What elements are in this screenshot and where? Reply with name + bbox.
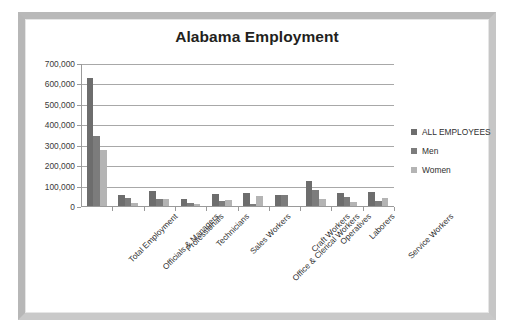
- y-axis-tick: [77, 207, 81, 208]
- legend-item: ALL EMPLOYEES: [411, 122, 491, 141]
- legend-swatch-icon: [411, 129, 417, 135]
- page-title: Alabama Employment: [25, 28, 489, 46]
- y-axis-tick-label: 600,000: [45, 79, 75, 89]
- y-axis-tick: [77, 146, 81, 147]
- x-axis-tick: [269, 207, 270, 211]
- plot-area: 0100,000200,000300,000400,000500,000600,…: [81, 64, 394, 207]
- bar: [312, 190, 319, 207]
- x-axis-tick: [144, 207, 145, 211]
- x-axis-category-label: Office & Clerical Workers: [291, 212, 362, 283]
- gridline: [81, 64, 394, 65]
- legend-swatch-icon: [411, 148, 417, 154]
- y-axis-tick: [77, 166, 81, 167]
- x-axis-category-label: Service Workers: [407, 212, 456, 261]
- x-axis-tick: [238, 207, 239, 211]
- legend-swatch-icon: [411, 167, 417, 173]
- y-axis-tick: [77, 64, 81, 65]
- y-axis-tick-label: 100,000: [45, 182, 75, 192]
- chart-legend: ALL EMPLOYEESMenWomen: [411, 122, 491, 179]
- bar: [100, 150, 107, 207]
- y-axis-tick-label: 400,000: [45, 120, 75, 130]
- bar: [243, 193, 250, 207]
- bar: [337, 193, 344, 208]
- y-axis-tick: [77, 84, 81, 85]
- gridline: [81, 146, 394, 147]
- chart-canvas: Alabama Employment 0100,000200,000300,00…: [25, 19, 489, 313]
- y-axis-tick-label: 500,000: [45, 100, 75, 110]
- x-axis-tick: [175, 207, 176, 211]
- plot-background: [81, 64, 394, 207]
- y-axis-line: [81, 64, 82, 207]
- bar: [368, 192, 375, 207]
- y-axis-tick-label: 700,000: [45, 59, 75, 69]
- gridline: [81, 105, 394, 106]
- y-axis-tick-label: 300,000: [45, 141, 75, 151]
- gridline: [81, 84, 394, 85]
- bar: [87, 78, 94, 207]
- y-axis-tick: [77, 125, 81, 126]
- bar: [306, 181, 313, 207]
- bar: [149, 191, 156, 207]
- legend-item: Women: [411, 160, 491, 179]
- x-axis-category-label: Sales Workers: [248, 212, 292, 256]
- gridline: [81, 187, 394, 188]
- bar: [93, 136, 100, 208]
- gridline: [81, 166, 394, 167]
- legend-item: Men: [411, 141, 491, 160]
- legend-item-label: ALL EMPLOYEES: [422, 127, 491, 137]
- gridline: [81, 125, 394, 126]
- y-axis-tick-label: 0: [70, 202, 75, 212]
- y-axis-tick: [77, 105, 81, 106]
- y-axis-tick-label: 200,000: [45, 161, 75, 171]
- x-axis-tick: [112, 207, 113, 211]
- x-axis-tick: [363, 207, 364, 211]
- x-axis-tick: [300, 207, 301, 211]
- x-axis-tick: [331, 207, 332, 211]
- y-axis-tick: [77, 187, 81, 188]
- chart-picture-frame: Alabama Employment 0100,000200,000300,00…: [18, 12, 496, 320]
- x-axis-tick: [394, 207, 395, 211]
- legend-item-label: Men: [422, 146, 438, 156]
- x-axis-tick: [206, 207, 207, 211]
- legend-item-label: Women: [422, 165, 451, 175]
